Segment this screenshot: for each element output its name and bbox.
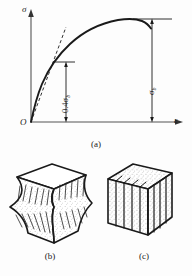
- panel-a-stress-strain-chart: σ ε O 0.4σb σb (a): [0, 0, 192, 150]
- panel-c-columnar-specimen: (c): [100, 155, 188, 250]
- dimension-0.4sigma-b: [53, 62, 75, 123]
- y-axis-label-sigma: σ: [22, 5, 26, 14]
- dimension-sigma-b: [133, 19, 172, 123]
- y-axis: [28, 9, 34, 122]
- columnar-split-cube-drawing: [100, 155, 188, 250]
- dimension-label-0.4-sigma-b: 0.4σb: [61, 95, 70, 113]
- panel-b-hourglass-specimen: (b): [4, 155, 96, 250]
- dimension-label-0.4-sigma-b-sub: b: [65, 95, 71, 98]
- caption-a: (a): [0, 140, 192, 149]
- stress-strain-plot: [0, 0, 192, 150]
- caption-c: (c): [100, 252, 188, 261]
- dimension-label-0.4-sigma-b-text: 0.4σ: [60, 98, 70, 113]
- figure-concrete-compression: σ ε O 0.4σb σb (a): [0, 0, 192, 276]
- hourglass-failed-cube-drawing: [4, 155, 96, 250]
- dimension-label-sigma-b-sub: b: [151, 87, 157, 90]
- dimension-label-sigma-b: σb: [147, 87, 156, 95]
- stress-strain-curve: [31, 19, 151, 122]
- caption-b: (b): [4, 252, 96, 261]
- specimen-c-front-face: [108, 179, 148, 235]
- x-axis-label-epsilon: ε: [174, 116, 178, 125]
- x-axis: [31, 119, 183, 125]
- origin-label: O: [20, 118, 27, 127]
- dimension-label-sigma-b-text: σ: [146, 90, 156, 95]
